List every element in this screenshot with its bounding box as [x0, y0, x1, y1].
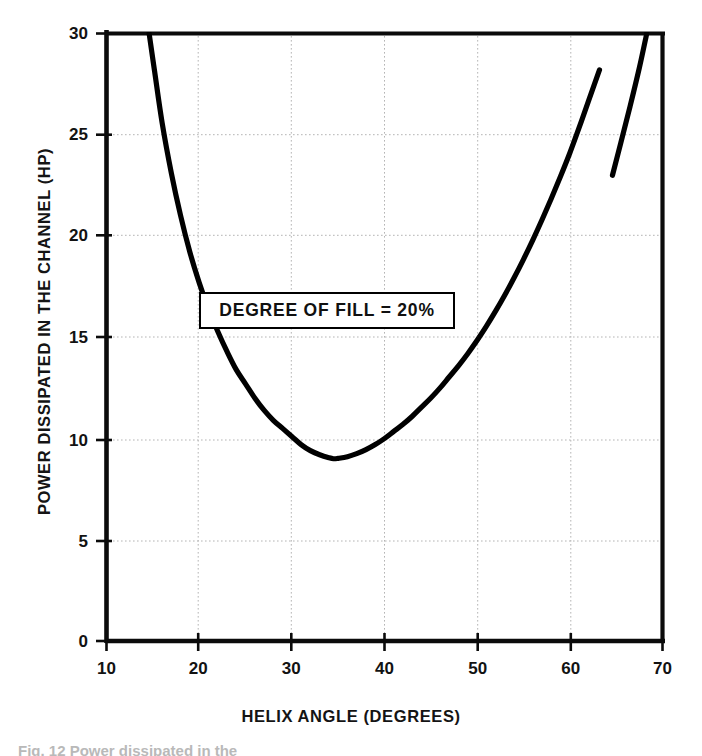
figure-caption: Fig. 12 Power dissipated in the	[18, 742, 418, 756]
y-tick-label-0: 0	[44, 633, 88, 650]
chart-plot-area	[0, 0, 702, 756]
x-axis-title: HELIX ANGLE (DEGREES)	[0, 707, 702, 726]
data-curve-main	[149, 34, 599, 459]
x-tick-label-60: 60	[548, 660, 594, 677]
y-tick-marks	[96, 34, 112, 642]
x-tick-label-70: 70	[640, 660, 686, 677]
x-tick-label-10: 10	[84, 660, 130, 677]
x-tick-label-50: 50	[455, 660, 501, 677]
x-tick-label-40: 40	[362, 660, 408, 677]
data-curve-tail	[612, 34, 646, 176]
figure-power-vs-helix-angle: 30 25 20 15 10 5 0 10 20 30 40 50 60 70 …	[0, 0, 702, 756]
x-tick-label-30: 30	[268, 660, 314, 677]
annotation-degree-of-fill: DEGREE OF FILL = 20%	[199, 292, 455, 329]
x-tick-label-20: 20	[175, 660, 221, 677]
annotation-label: DEGREE OF FILL = 20%	[219, 300, 435, 321]
y-axis-title: POWER DISSIPATED IN THE CHANNEL (HP)	[35, 32, 54, 632]
